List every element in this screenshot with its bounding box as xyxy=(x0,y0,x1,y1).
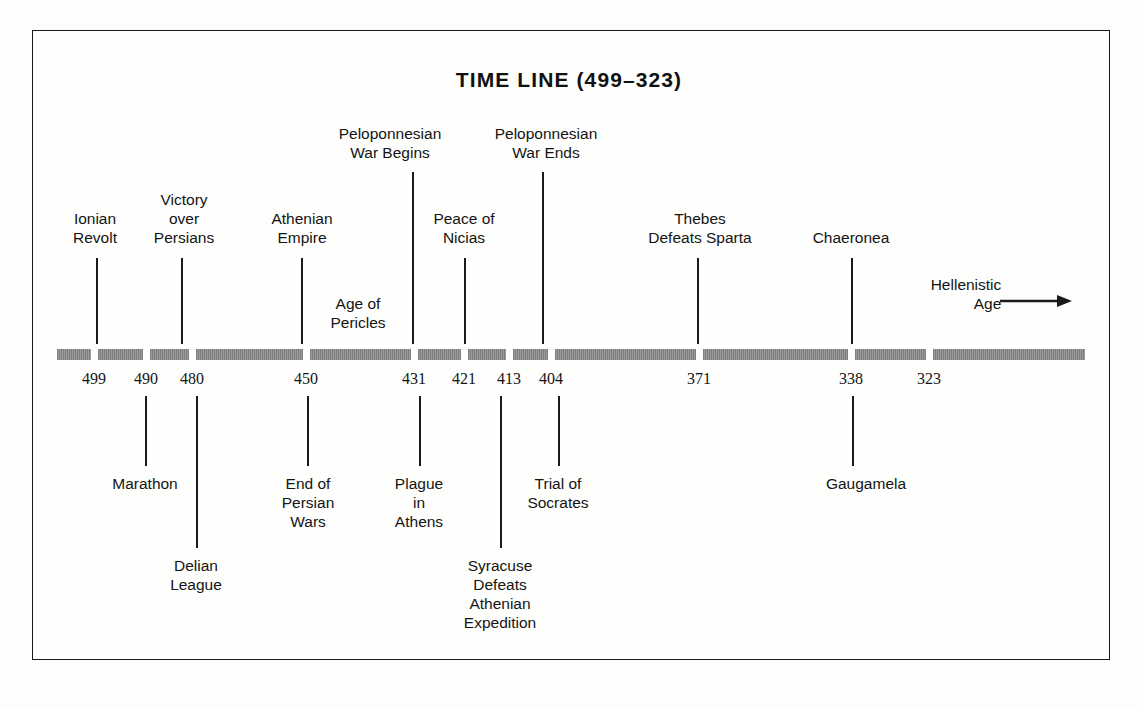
leader-line-peloponnesian-war-begins xyxy=(412,172,414,344)
event-label-line: End of xyxy=(282,474,335,493)
event-label-line: Athenian xyxy=(271,209,332,228)
event-label-athenian-empire: AthenianEmpire xyxy=(271,209,332,247)
timeline-page: TIME LINE (499–323) 49949048045043142141… xyxy=(0,0,1138,707)
timeline-date-label: 450 xyxy=(294,370,318,388)
leader-line-victory-over-persians xyxy=(181,258,183,344)
timeline-date-label: 371 xyxy=(687,370,711,388)
timeline-bar-segment xyxy=(418,349,461,360)
timeline-bar-segment xyxy=(150,349,189,360)
event-label-line: Athenian xyxy=(464,594,536,613)
timeline-date-label: 431 xyxy=(402,370,426,388)
timeline-date-label: 421 xyxy=(452,370,476,388)
timeline-bar-segment xyxy=(57,349,91,360)
leader-line-gaugamela xyxy=(852,396,854,466)
event-label-line: Pericles xyxy=(330,313,385,332)
era-label-line: Hellenistic xyxy=(931,275,1002,294)
leader-line-peace-of-nicias xyxy=(464,258,466,344)
leader-line-ionian-revolt xyxy=(96,258,98,344)
event-label-line: Empire xyxy=(271,228,332,247)
event-label-line: Revolt xyxy=(73,228,117,247)
event-label-line: Thebes xyxy=(648,209,751,228)
event-label-line: War Ends xyxy=(495,143,598,162)
leader-line-peloponnesian-war-ends xyxy=(542,172,544,344)
era-label-hellenistic-age: HellenisticAge xyxy=(931,275,1002,313)
leader-line-delian-league xyxy=(196,396,198,548)
timeline-bar-segment xyxy=(98,349,143,360)
timeline-date-label: 338 xyxy=(839,370,863,388)
event-label-peloponnesian-war-ends: PeloponnesianWar Ends xyxy=(495,124,598,162)
event-label-delian-league: DelianLeague xyxy=(170,556,222,594)
event-label-victory-over-persians: VictoryoverPersians xyxy=(154,190,214,247)
event-label-line: Delian xyxy=(170,556,222,575)
event-label-plague-in-athens: PlagueinAthens xyxy=(395,474,443,531)
timeline-date-label: 480 xyxy=(180,370,204,388)
timeline-date-label: 404 xyxy=(539,370,563,388)
event-label-line: Persians xyxy=(154,228,214,247)
event-label-line: Marathon xyxy=(112,474,177,493)
event-label-age-of-pericles: Age ofPericles xyxy=(330,294,385,332)
timeline-bar-segment xyxy=(310,349,411,360)
event-label-line: Peace of xyxy=(433,209,494,228)
event-label-line: Trial of xyxy=(527,474,588,493)
leader-line-chaeronea xyxy=(851,258,853,344)
timeline-bar-segment xyxy=(933,349,1086,360)
leader-line-thebes-defeats-sparta xyxy=(697,258,699,344)
event-label-line: Gaugamela xyxy=(826,474,906,493)
timeline-bar-segment xyxy=(703,349,848,360)
timeline-date-label: 490 xyxy=(134,370,158,388)
era-label-line: Age xyxy=(931,294,1002,313)
event-label-gaugamela: Gaugamela xyxy=(826,474,906,493)
leader-line-plague-in-athens xyxy=(419,396,421,466)
timeline-bar-segment xyxy=(513,349,548,360)
leader-line-marathon xyxy=(145,396,147,466)
leader-line-syracuse-defeats-athenian-expedition xyxy=(500,396,502,548)
event-label-line: over xyxy=(154,209,214,228)
event-label-line: Defeats xyxy=(464,575,536,594)
event-label-line: War Begins xyxy=(339,143,442,162)
timeline-layer: 499490480450431421413404371338323 Ionian… xyxy=(0,0,1138,707)
event-label-trial-of-socrates: Trial ofSocrates xyxy=(527,474,588,512)
event-label-line: Victory xyxy=(154,190,214,209)
event-label-line: League xyxy=(170,575,222,594)
event-label-line: Syracuse xyxy=(464,556,536,575)
event-label-line: in xyxy=(395,493,443,512)
event-label-line: Persian xyxy=(282,493,335,512)
event-label-thebes-defeats-sparta: ThebesDefeats Sparta xyxy=(648,209,751,247)
event-label-line: Nicias xyxy=(433,228,494,247)
event-label-line: Ionian xyxy=(73,209,117,228)
event-label-line: Defeats Sparta xyxy=(648,228,751,247)
event-label-peace-of-nicias: Peace ofNicias xyxy=(433,209,494,247)
event-label-marathon: Marathon xyxy=(112,474,177,493)
hellenistic-age-arrow-icon xyxy=(1000,292,1072,310)
timeline-date-label: 499 xyxy=(82,370,106,388)
timeline-bar-segment xyxy=(855,349,926,360)
timeline-date-label: 323 xyxy=(917,370,941,388)
timeline-bar-segment xyxy=(468,349,506,360)
event-label-line: Plague xyxy=(395,474,443,493)
event-label-chaeronea: Chaeronea xyxy=(813,228,890,247)
event-label-line: Peloponnesian xyxy=(495,124,598,143)
leader-line-trial-of-socrates xyxy=(558,396,560,466)
event-label-end-of-persian-wars: End ofPersianWars xyxy=(282,474,335,531)
timeline-date-label: 413 xyxy=(497,370,521,388)
leader-line-athenian-empire xyxy=(301,258,303,344)
event-label-line: Age of xyxy=(330,294,385,313)
event-label-line: Chaeronea xyxy=(813,228,890,247)
event-label-line: Socrates xyxy=(527,493,588,512)
event-label-line: Athens xyxy=(395,512,443,531)
leader-line-end-of-persian-wars xyxy=(307,396,309,466)
event-label-ionian-revolt: IonianRevolt xyxy=(73,209,117,247)
event-label-line: Wars xyxy=(282,512,335,531)
event-label-syracuse-defeats-athenian-expedition: SyracuseDefeatsAthenianExpedition xyxy=(464,556,536,632)
timeline-bar-segment xyxy=(555,349,696,360)
event-label-peloponnesian-war-begins: PeloponnesianWar Begins xyxy=(339,124,442,162)
event-label-line: Peloponnesian xyxy=(339,124,442,143)
event-label-line: Expedition xyxy=(464,613,536,632)
timeline-bar-segment xyxy=(196,349,303,360)
